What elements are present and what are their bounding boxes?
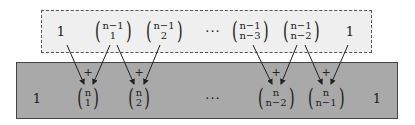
top-row-binomial-term: (n−11) [93, 19, 133, 43]
plus-sign: + [134, 66, 143, 79]
binom-bottom: 2 [136, 98, 142, 108]
binom-bottom: n−2 [265, 98, 286, 108]
binom-bottom: 1 [85, 98, 91, 108]
bottom-row-ellipsis: ··· [205, 91, 220, 106]
plus-sign: + [321, 66, 330, 79]
top-row-binomial-term: (n−12) [144, 19, 184, 43]
top-row-one-term: 1 [346, 24, 354, 39]
bottom-row-binomial-term: (n1) [75, 86, 100, 110]
arrow-icon [281, 45, 297, 84]
bottom-row-one-term: 1 [33, 91, 41, 106]
top-row-ellipsis: ··· [205, 24, 220, 39]
arrow-icon [117, 45, 134, 84]
binom-bottom: n−1 [315, 98, 336, 108]
bottom-row-binomial-term: (n2) [126, 86, 151, 110]
plus-sign: + [83, 66, 92, 79]
binom-bottom: 1 [110, 31, 116, 41]
arrow-icon [253, 45, 272, 84]
binom-bottom: n−3 [239, 31, 260, 41]
top-row-binomial-term: (n−1n−2) [281, 19, 321, 43]
top-row-binomial-term: (n−1n−3) [230, 19, 270, 43]
binom-bottom: n−2 [290, 31, 311, 41]
bottom-row-binomial-term: (nn−2) [256, 86, 296, 110]
top-row-one-term: 1 [57, 24, 65, 39]
plus-sign: + [271, 66, 280, 79]
arrow-icon [144, 45, 160, 84]
bottom-row-binomial-term: (nn−1) [306, 86, 346, 110]
arrow-icon [93, 45, 110, 84]
arrows-layer [0, 0, 415, 125]
binom-bottom: 2 [161, 31, 167, 41]
arrow-icon [67, 45, 84, 84]
bottom-row-one-term: 1 [373, 91, 381, 106]
arrow-icon [331, 45, 348, 84]
arrow-icon [305, 45, 322, 84]
